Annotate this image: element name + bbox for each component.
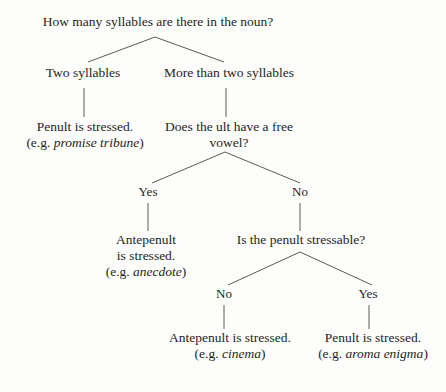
penult-stressed-two-line1: Penult is stressed. bbox=[16, 119, 154, 135]
branch-label-free-vowel-yes: Yes bbox=[126, 184, 170, 200]
two-syllables-text: Two syllables bbox=[33, 65, 133, 81]
node-penult-stressed-final: Penult is stressed. (e.g. aroma enigma) bbox=[306, 330, 440, 362]
example-prefix: (e.g. bbox=[106, 264, 133, 279]
antepenult-final-line1: Antepenult is stressed. bbox=[152, 330, 308, 346]
penult-stressable-text: Is the penult stressable? bbox=[228, 232, 374, 248]
branch-label-free-vowel-no: No bbox=[278, 184, 322, 200]
example-word: aroma enigma bbox=[346, 346, 424, 361]
more-than-two-syllables-text: More than two syllables bbox=[156, 65, 302, 81]
node-root-question: How many syllables are there in the noun… bbox=[30, 14, 286, 30]
example-prefix: (e.g. bbox=[195, 346, 222, 361]
example-suffix: ) bbox=[261, 346, 266, 361]
node-penult-stressable-question: Is the penult stressable? bbox=[228, 232, 374, 248]
example-suffix: ) bbox=[139, 135, 144, 150]
example-prefix: (e.g. bbox=[26, 135, 53, 150]
connector-free-vowel-to-yes bbox=[152, 152, 225, 183]
node-two-syllables: Two syllables bbox=[33, 65, 133, 81]
penult-final-line1: Penult is stressed. bbox=[306, 330, 440, 346]
node-free-vowel-question: Does the ult have a free vowel? bbox=[156, 119, 302, 151]
node-antepenult-stressed-final: Antepenult is stressed. (e.g. cinema) bbox=[152, 330, 308, 362]
penult-final-example: (e.g. aroma enigma) bbox=[306, 346, 440, 362]
connector-root-to-more-syllables bbox=[155, 37, 224, 62]
node-more-than-two-syllables: More than two syllables bbox=[156, 65, 302, 81]
example-word: cinema bbox=[222, 346, 261, 361]
antepenult-example: (e.g. anecdote) bbox=[86, 264, 206, 280]
example-word: promise tribune bbox=[54, 135, 139, 150]
branch-label-stressable-no: No bbox=[202, 286, 246, 302]
branch-label-stressable-yes: Yes bbox=[346, 286, 390, 302]
antepenult-final-example: (e.g. cinema) bbox=[152, 346, 308, 362]
decision-tree-diagram: How many syllables are there in the noun… bbox=[0, 0, 446, 392]
free-vowel-line2: vowel? bbox=[156, 135, 302, 151]
connector-stressable-to-yes bbox=[300, 252, 372, 285]
example-word: anecdote bbox=[133, 264, 182, 279]
root-question-text: How many syllables are there in the noun… bbox=[30, 14, 286, 30]
penult-stressed-two-example: (e.g. promise tribune) bbox=[16, 135, 154, 151]
connector-root-to-two-syllables bbox=[88, 37, 155, 62]
example-suffix: ) bbox=[182, 264, 187, 279]
example-suffix: ) bbox=[423, 346, 428, 361]
example-prefix: (e.g. bbox=[318, 346, 345, 361]
connector-stressable-to-no bbox=[228, 252, 300, 285]
antepenult-line1: Antepenult bbox=[86, 232, 206, 248]
node-penult-stressed-two-syllables: Penult is stressed. (e.g. promise tribun… bbox=[16, 119, 154, 151]
antepenult-line2: is stressed. bbox=[86, 248, 206, 264]
connector-free-vowel-to-no bbox=[225, 152, 300, 183]
node-antepenult-stressed: Antepenult is stressed. (e.g. anecdote) bbox=[86, 232, 206, 280]
free-vowel-line1: Does the ult have a free bbox=[156, 119, 302, 135]
